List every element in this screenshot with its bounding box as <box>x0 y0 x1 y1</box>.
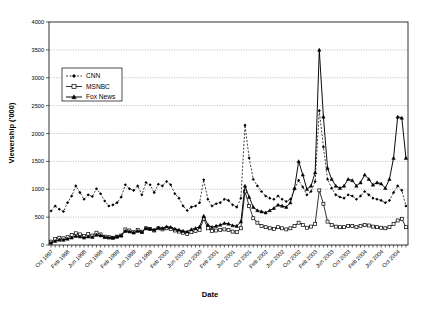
data-point-marker <box>149 183 152 186</box>
data-point-marker <box>363 190 366 193</box>
data-point-marker <box>297 160 300 163</box>
x-tick-label: Oct 2004 <box>381 248 401 268</box>
data-point-marker <box>111 203 114 206</box>
data-point-marker <box>243 184 246 187</box>
data-point-marker <box>384 201 387 204</box>
data-point-marker <box>313 171 316 174</box>
data-point-marker <box>281 198 284 201</box>
data-point-marker <box>206 198 209 201</box>
y-tick-label: 1000 <box>32 186 44 192</box>
data-point-marker <box>359 225 362 228</box>
data-point-marker <box>384 227 387 230</box>
data-point-marker <box>256 184 259 187</box>
data-point-marker <box>388 178 391 181</box>
data-point-marker <box>380 226 383 229</box>
data-point-marker <box>58 208 61 211</box>
data-point-marker <box>260 190 263 193</box>
data-point-marker <box>363 223 366 226</box>
data-point-marker <box>346 178 349 181</box>
data-point-marker <box>371 225 374 228</box>
data-point-marker <box>326 178 329 181</box>
legend-label: CNN <box>86 72 101 79</box>
y-tick-label: 2000 <box>32 131 44 137</box>
data-point-marker <box>293 186 296 189</box>
data-point-marker <box>355 198 358 201</box>
legend-marker-swatch <box>72 85 76 89</box>
data-point-marker <box>338 196 341 199</box>
data-point-marker <box>144 181 147 184</box>
data-point-marker <box>338 226 341 229</box>
data-point-marker <box>272 198 275 201</box>
data-point-marker <box>260 225 263 228</box>
data-point-marker <box>124 183 127 186</box>
data-point-marker <box>318 189 321 192</box>
data-point-marker <box>157 183 160 186</box>
data-point-marker <box>62 210 65 213</box>
data-point-marker <box>235 206 238 209</box>
data-point-marker <box>396 219 399 222</box>
y-axis-title: Viewership ('000) <box>7 102 16 163</box>
data-point-marker <box>285 228 288 231</box>
data-point-marker <box>322 145 325 148</box>
data-point-marker <box>334 225 337 228</box>
data-point-marker <box>289 227 292 230</box>
y-tick-label: 2500 <box>32 103 44 109</box>
data-point-marker <box>186 209 189 212</box>
data-point-marker <box>343 226 346 229</box>
y-tick-label: 0 <box>41 242 44 248</box>
x-axis-tick-labels: Oct 1997Feb 1998Jun 1998Oct 1998Feb 1999… <box>34 248 401 269</box>
data-point-marker <box>268 227 271 230</box>
data-point-marker <box>293 225 296 228</box>
data-point-marker <box>351 225 354 228</box>
data-point-marker <box>330 178 333 181</box>
data-point-marker <box>314 222 317 225</box>
data-point-marker <box>371 197 374 200</box>
viewership-line-chart: 05001000150020002500300035004000 Oct 199… <box>0 0 421 312</box>
data-point-marker <box>210 230 213 233</box>
y-tick-label: 500 <box>35 214 44 220</box>
data-point-marker <box>376 226 379 229</box>
y-axis-tick-labels: 05001000150020002500300035004000 <box>32 19 44 248</box>
chart-legend[interactable]: CNNMSNBCFox News <box>62 68 122 101</box>
data-point-marker <box>231 230 234 233</box>
data-point-marker <box>173 192 176 195</box>
data-point-marker <box>206 227 209 230</box>
y-tick-label: 3500 <box>32 47 44 53</box>
data-point-marker <box>392 156 395 159</box>
data-point-marker <box>74 184 77 187</box>
data-point-marker <box>99 192 102 195</box>
data-point-marker <box>305 193 308 196</box>
data-point-marker <box>268 197 271 200</box>
data-point-marker <box>227 228 230 231</box>
data-point-marker <box>252 217 255 220</box>
data-point-marker <box>247 195 250 198</box>
data-point-marker <box>103 199 106 202</box>
series-cnn <box>50 109 408 213</box>
data-point-marker <box>248 156 251 159</box>
data-point-marker <box>375 181 378 184</box>
data-point-marker <box>66 201 69 204</box>
data-point-marker <box>392 222 395 225</box>
data-point-marker <box>310 225 313 228</box>
data-point-marker <box>380 199 383 202</box>
y-tick-label: 1500 <box>32 158 44 164</box>
data-point-marker <box>355 226 358 229</box>
data-point-marker <box>289 201 292 204</box>
data-point-marker <box>281 227 284 230</box>
data-point-marker <box>400 217 403 220</box>
data-point-marker <box>153 191 156 194</box>
data-point-marker <box>322 202 325 205</box>
data-point-marker <box>301 223 304 226</box>
data-point-marker <box>322 115 325 118</box>
data-point-marker <box>165 180 168 183</box>
data-point-marker <box>252 205 255 208</box>
tickmarks-group <box>46 22 406 248</box>
data-point-marker <box>235 231 238 234</box>
data-point-marker <box>376 198 379 201</box>
legend-label: Fox News <box>86 93 116 100</box>
data-point-marker <box>198 228 201 231</box>
data-point-marker <box>256 221 259 224</box>
data-point-marker <box>404 156 407 159</box>
data-point-marker <box>404 204 407 207</box>
data-point-marker <box>309 184 312 187</box>
